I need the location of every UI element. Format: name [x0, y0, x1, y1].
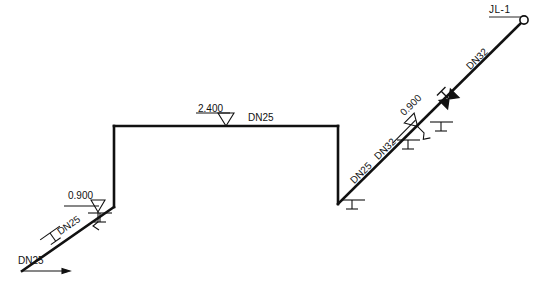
terminal-jl1-marker[interactable] — [520, 16, 528, 24]
level-symbol-middle — [196, 113, 234, 126]
piping-diagram-svg — [0, 0, 538, 284]
elevation-label-middle: 2.400 — [198, 103, 223, 114]
support-right-upper — [430, 122, 453, 131]
support-left-riser — [88, 213, 112, 222]
elevation-label-left: 0.900 — [68, 190, 93, 201]
drawing-canvas: JL-1 0.900 2.400 0.900 DN25 DN25 DN25 DN… — [0, 0, 538, 284]
pipe-size-label-inlet: DN25 — [18, 255, 44, 266]
pipe-segment-right-diagonal — [338, 20, 524, 204]
inlet-flow-arrow — [22, 269, 70, 274]
level-symbol-right — [389, 113, 435, 159]
pipe-size-label-horizontal: DN25 — [248, 112, 274, 123]
support-right-base — [341, 200, 365, 209]
terminal-id-label: JL-1 — [489, 4, 510, 15]
pipe-route — [22, 20, 524, 271]
